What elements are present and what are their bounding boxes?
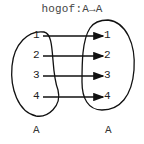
codomain-element-1: 1 <box>104 29 111 41</box>
codomain-label: A <box>105 124 112 136</box>
domain-label: A <box>33 124 40 136</box>
domain-element-4: 4 <box>33 90 40 102</box>
codomain-element-3: 3 <box>104 69 111 81</box>
domain-element-1: 1 <box>33 29 40 41</box>
domain-element-3: 3 <box>33 69 40 81</box>
codomain-element-2: 2 <box>104 49 111 61</box>
mapping-diagram <box>0 0 144 144</box>
codomain-element-4: 4 <box>104 90 111 102</box>
domain-element-2: 2 <box>33 49 40 61</box>
